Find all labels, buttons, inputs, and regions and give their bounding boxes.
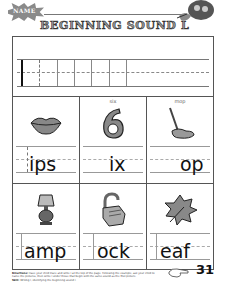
directions-text: Have your child trace and write l at the… — [12, 272, 155, 278]
page-title: BEGINNING SOUND L — [40, 19, 189, 32]
word-ending: op — [180, 155, 204, 174]
written-letter-l[interactable] — [21, 234, 22, 259]
lamp-icon — [28, 192, 64, 228]
name-line[interactable] — [44, 14, 186, 15]
trace-letter-l[interactable] — [109, 60, 110, 86]
leaf-icon — [162, 192, 198, 228]
pointing-hand-icon — [168, 267, 190, 278]
word-ending: ock — [97, 242, 130, 261]
skill-text: Writing l, identifying the beginning sou… — [20, 279, 76, 282]
cell-lock: ock — [80, 184, 147, 269]
trace-row — [13, 37, 213, 97]
six-icon — [95, 105, 131, 141]
trace-letter-l[interactable] — [74, 60, 75, 86]
mop-icon — [162, 105, 198, 141]
writing-lines: ix — [83, 146, 143, 174]
directions: Directions: Have your child trace and wr… — [12, 272, 162, 282]
trace-letter-l[interactable] — [57, 60, 58, 86]
trace-letter-l[interactable] — [27, 147, 28, 172]
lips-icon — [28, 109, 64, 145]
writing-lines: amp — [16, 233, 76, 261]
guide-line-bottom — [17, 86, 209, 87]
cell-mop: mop op — [147, 97, 213, 184]
guide-line-top — [17, 59, 209, 60]
writing-lines: ock — [83, 233, 143, 261]
written-letter-l[interactable] — [93, 234, 94, 259]
cell-caption: six — [80, 98, 146, 104]
writing-lines: ips — [16, 146, 76, 174]
word-ending: eaf — [160, 242, 190, 261]
word-ending: amp — [24, 242, 66, 261]
trace-letter-l[interactable] — [39, 60, 40, 86]
name-label: NAME — [13, 7, 36, 14]
cell-caption: mop — [147, 98, 213, 104]
writing-lines: eaf — [150, 233, 210, 261]
written-letter-l[interactable] — [156, 234, 157, 259]
lock-icon — [95, 192, 131, 228]
writing-lines: op — [150, 146, 210, 174]
worksheet: ips six ix mop op — [12, 36, 214, 270]
skill-label: Skill: — [12, 279, 19, 282]
cell-leaf: eaf — [147, 184, 213, 269]
trace-letter-l[interactable] — [91, 60, 92, 86]
example-letter-l — [21, 60, 23, 86]
word-ending: ix — [109, 155, 126, 174]
cell-lips: ips — [13, 97, 80, 184]
trace-letter-l[interactable] — [126, 60, 127, 86]
word-ending: ips — [29, 155, 56, 174]
cell-six: six ix — [80, 97, 147, 184]
page-number: 31 — [196, 262, 214, 277]
guide-line-mid — [17, 72, 209, 73]
cell-lamp: amp — [13, 184, 80, 269]
picture-grid: ips six ix mop op — [13, 97, 213, 269]
